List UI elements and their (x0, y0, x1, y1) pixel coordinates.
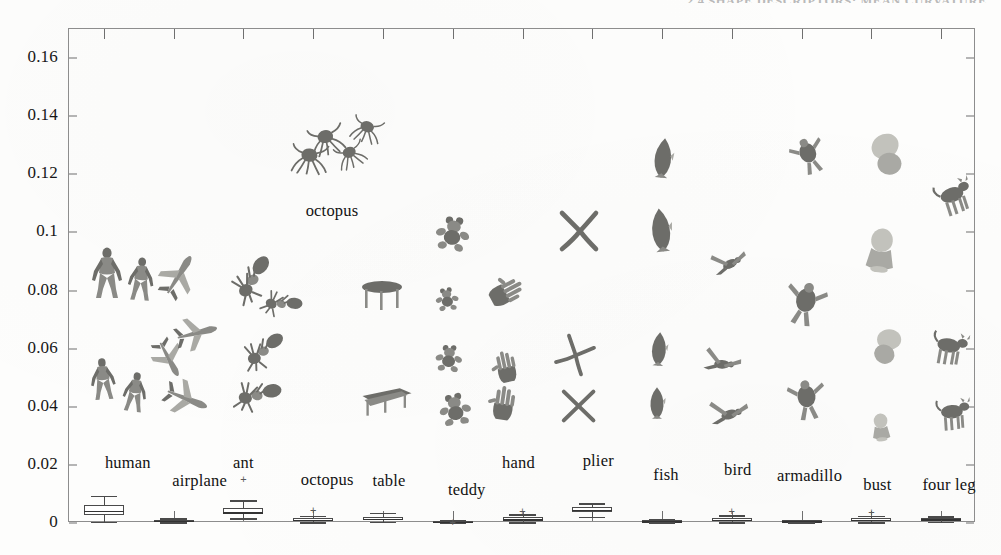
boxplot-four-leg[interactable] (69, 29, 976, 523)
y-axis-tick-label: 0 (0, 512, 58, 532)
running-head: 2.4 SHAPE DESCRIPTORS: MEAN CURVATURE (687, 0, 987, 3)
boxplot-whisker-cap (928, 522, 954, 523)
figure-page: 2.4 SHAPE DESCRIPTORS: MEAN CURVATURE 00… (0, 0, 1001, 555)
y-axis-tick-label: 0.08 (0, 280, 58, 300)
y-axis-tick-label: 0.16 (0, 47, 58, 67)
y-axis-tick-label: 0.14 (0, 105, 58, 125)
y-axis-tick-label: 0.1 (0, 221, 58, 241)
boxplot-whisker-cap (928, 516, 954, 517)
y-axis-tick-label: 0.04 (0, 396, 58, 416)
y-axis-tick-label: 0.06 (0, 338, 58, 358)
y-axis-tick-label: 0.02 (0, 454, 58, 474)
plot-frame: humanairplaneantoctopustableteddyhandpli… (68, 28, 975, 522)
y-axis-tick-label: 0.12 (0, 163, 58, 183)
